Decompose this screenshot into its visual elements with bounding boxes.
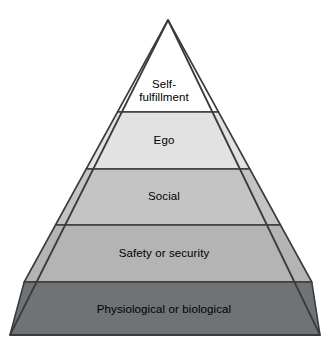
tier-label-safety: Safety or security bbox=[0, 247, 328, 260]
pyramid-diagram: Self- fulfillment Ego Social Safety or s… bbox=[0, 0, 328, 341]
pyramid-shape bbox=[0, 0, 328, 341]
tier-label-ego: Ego bbox=[0, 134, 328, 147]
tier-label-social: Social bbox=[0, 190, 328, 203]
tier-label-self-fulfillment: Self- fulfillment bbox=[0, 78, 328, 104]
tier-label-physiological: Physiological or biological bbox=[0, 303, 328, 316]
